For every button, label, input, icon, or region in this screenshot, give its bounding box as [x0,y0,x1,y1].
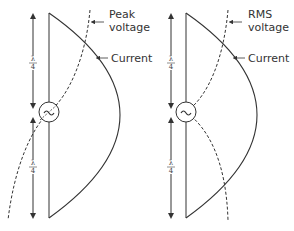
peak-voltage-label-line1: Peak [109,8,136,21]
dipole-diagram: λ 4 λ 4 Peak voltage [0,0,294,231]
svg-text:λ: λ [169,159,174,167]
rf-source-symbol-right [176,102,196,122]
rms-voltage-label-line2: voltage [248,21,289,34]
svg-text:λ: λ [31,55,36,63]
left-panel: λ 4 λ 4 Peak voltage [8,8,153,220]
right-panel: λ 4 λ 4 RMS voltage Current [167,8,290,220]
svg-text:λ: λ [169,55,174,63]
lower-quarter-wave-label-right: λ 4 [167,159,175,175]
svg-text:4: 4 [169,63,174,71]
current-curve [49,13,120,218]
rms-voltage-label-line1: RMS [248,8,272,21]
current-label-right: Current [248,52,290,65]
lower-quarter-wave-label: λ 4 [29,159,37,175]
svg-text:4: 4 [31,63,36,71]
upper-quarter-wave-label: λ 4 [29,55,37,71]
svg-text:4: 4 [31,167,36,175]
svg-text:λ: λ [31,159,36,167]
peak-voltage-label-line2: voltage [109,21,150,34]
upper-quarter-wave-label-right: λ 4 [167,55,175,71]
current-label-left: Current [111,52,153,65]
rf-source-symbol [39,102,59,122]
svg-text:4: 4 [169,167,174,175]
current-curve-right [186,13,257,218]
